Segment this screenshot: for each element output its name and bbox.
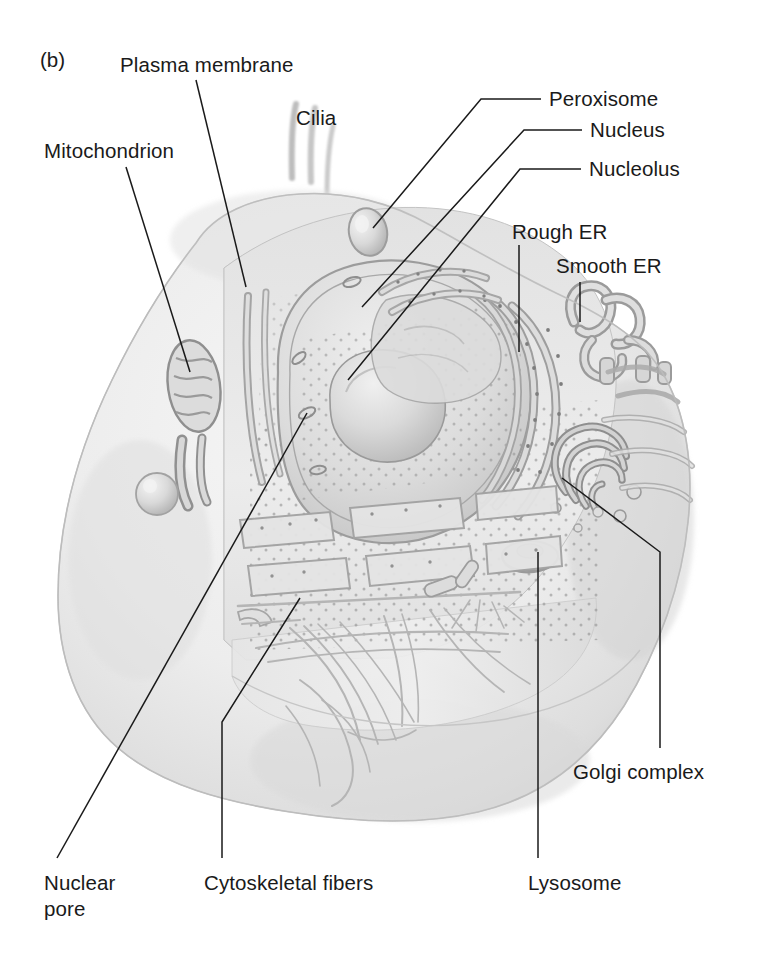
leader-golgi-complex [562,478,660,748]
panel-tag: (b) [40,48,65,72]
cell-diagram-figure: (b) Plasma membrane Cilia Mitochondrion … [0,0,760,976]
label-nuclear-pore-line2: pore [44,896,85,921]
leader-cytoskeletal-fibers [222,598,300,858]
leader-mitochondrion [126,167,190,372]
label-mitochondrion: Mitochondrion [44,138,174,163]
label-peroxisome: Peroxisome [549,86,658,111]
label-lysosome: Lysosome [528,870,621,895]
label-nucleolus: Nucleolus [589,156,680,181]
label-smooth-er: Smooth ER [556,253,662,278]
label-cilia: Cilia [296,105,336,130]
label-golgi-complex: Golgi complex [573,759,704,784]
leader-peroxisome [373,99,541,228]
leader-plasma-membrane [196,80,246,287]
leader-nuclear-pore [57,413,307,858]
label-plasma-membrane: Plasma membrane [120,52,294,77]
label-cytoskeletal-fibers: Cytoskeletal fibers [204,870,373,895]
label-rough-er: Rough ER [512,219,607,244]
label-nucleus: Nucleus [590,117,665,142]
label-nuclear-pore-line1: Nuclear [44,870,115,895]
leader-nucleolus [348,169,581,380]
